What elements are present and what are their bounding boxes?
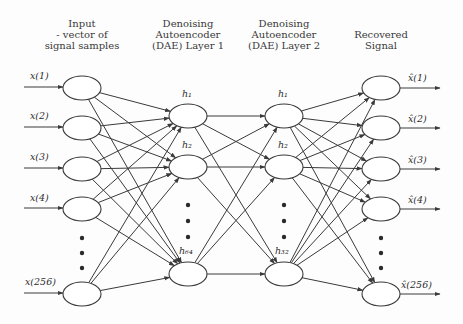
connection-edge [300,174,366,202]
input-label-3: x(3) [30,151,49,162]
ellipsis-dot [186,203,190,207]
connection-edge [290,99,375,262]
dae1-label-h1: h₁ [182,88,192,99]
connection-edge [302,278,363,291]
connection-edge [298,124,366,161]
dae2-node-3 [265,262,303,286]
connection-edge [91,178,179,284]
dae2-label-h1: h₁ [278,88,288,99]
dae2-node-1 [265,104,303,128]
ellipsis-dot [80,251,84,255]
output-node-3 [362,157,400,181]
ellipsis-dot [379,266,383,270]
output-label-256: x̂(256) [401,279,432,290]
ellipsis-dot [186,219,190,223]
output-label-2: x̂(2) [408,113,427,124]
dae2-label-h2: h₂ [278,139,288,150]
connection-edge [89,127,182,283]
output-node-2 [362,116,400,140]
connection-edge [303,167,362,168]
connection-edge [96,217,175,265]
ellipsis-dot [282,203,286,207]
connection-edge [97,123,173,161]
dae1-node-1 [169,104,207,128]
ellipsis-dot [282,235,286,239]
input-node-4 [63,197,101,221]
output-node-5 [362,282,400,306]
output-node-4 [362,197,400,221]
nodes [63,76,400,306]
input-label-256: x(256) [25,276,56,287]
input-node-3 [63,157,101,181]
connection-edge [98,173,172,202]
input-label-4: x(4) [30,192,49,203]
dae2-label-h32: h₃₂ [275,245,289,256]
dae1-node-3 [169,262,207,286]
connection-edge [294,179,372,263]
ellipsis-dot [186,235,190,239]
ellipsis-dot [80,266,84,270]
input-label-1: x(1) [30,70,49,81]
connection-edge [101,118,170,126]
connection-edge [301,93,363,111]
connection-edge [88,99,181,262]
connection-edge [98,134,171,161]
connection-edge [303,118,363,125]
input-label-2: x(2) [30,110,49,121]
connection-edge [296,97,370,157]
ellipsis-dot [282,219,286,223]
ellipsis-dot [379,251,383,255]
dae1-label-h64: h₆₄ [179,245,193,256]
network-graph [0,0,463,324]
input-node-1 [63,76,101,100]
input-node-5 [63,282,101,306]
dae1-label-h2: h₂ [182,139,192,150]
connection-edge [297,218,368,266]
dae-network-diagram: Input - vector of signal samples Denoisi… [0,0,463,324]
output-label-4: x̂(4) [408,194,427,205]
dae1-node-2 [169,155,207,179]
output-label-1: x̂(1) [408,72,427,83]
ellipsis-dot [379,236,383,240]
output-node-1 [362,76,400,100]
connection-edge [292,178,372,283]
connection-edge [290,127,375,282]
output-label-3: x̂(3) [408,154,427,165]
input-node-2 [63,116,101,140]
connection-edge [92,179,178,264]
connection-edge [94,97,175,158]
connection-edge [100,277,170,290]
ellipsis-dot [80,236,84,240]
dae2-node-2 [265,155,303,179]
